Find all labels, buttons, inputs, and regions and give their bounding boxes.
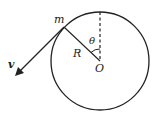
velocity-label: v bbox=[8, 59, 14, 70]
center-label: O bbox=[95, 63, 104, 74]
mass-label: m bbox=[54, 14, 64, 25]
angle-label: θ bbox=[89, 36, 95, 46]
angle-arc bbox=[91, 49, 100, 53]
radius-label: R bbox=[73, 48, 81, 59]
velocity-vector bbox=[19, 27, 64, 72]
